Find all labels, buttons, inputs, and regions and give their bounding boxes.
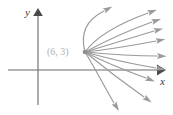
source-point-label: (6, 3) [47, 46, 69, 58]
field-curve-arrowhead [151, 16, 162, 24]
field-curve-arrowhead [147, 7, 158, 16]
field-curve-arrowhead [155, 36, 165, 44]
field-curve [85, 13, 148, 52]
field-curve-arrowhead [142, 95, 153, 105]
x-axis-label: x [159, 75, 165, 87]
curve-fan-group [83, 4, 166, 113]
field-curve-arrowhead [157, 53, 167, 59]
field-curve-arrowhead [103, 4, 114, 14]
math-figure-vector-field: y x (6, 3) [0, 0, 173, 115]
y-axis-label: y [24, 6, 30, 18]
field-curve-arrowhead [145, 75, 156, 84]
field-curve-arrowhead [153, 26, 164, 34]
y-axis-arrowhead [33, 8, 43, 16]
source-point-marker [83, 50, 88, 55]
field-curve [83, 11, 104, 52]
field-curve-arrowhead [112, 101, 122, 112]
figure-canvas: y x (6, 3) [0, 0, 173, 115]
axes-group [8, 8, 166, 105]
